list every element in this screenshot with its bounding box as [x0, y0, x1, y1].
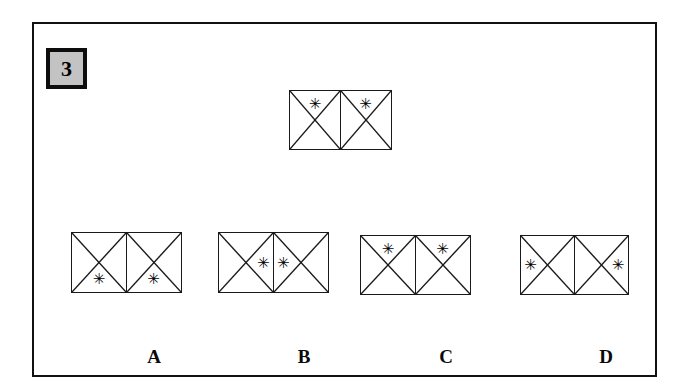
asterisk-marker: ✳ [359, 97, 373, 111]
option-a-figure[interactable]: ✳✳ [71, 232, 182, 293]
option-d-figure-cell-1: ✳ [520, 235, 575, 295]
option-c-figure-cell-1: ✳ [360, 235, 416, 295]
prompt-figure-cell-1: ✳ [289, 90, 341, 150]
prompt-figure: ✳✳ [289, 90, 392, 150]
option-a-figure-cell-2: ✳ [126, 232, 182, 293]
asterisk-marker: ✳ [611, 258, 625, 272]
option-b-figure[interactable]: ✳✳ [218, 232, 329, 293]
option-d-figure[interactable]: ✳✳ [520, 235, 629, 295]
asterisk-marker: ✳ [524, 258, 538, 272]
option-label-d[interactable]: D [586, 346, 626, 368]
prompt-figure-cell-2: ✳ [340, 90, 392, 150]
option-c-figure-cell-2: ✳ [415, 235, 471, 295]
option-label-a[interactable]: A [134, 346, 174, 368]
question-number-text: 3 [61, 58, 72, 80]
asterisk-marker: ✳ [436, 242, 450, 256]
option-label-c[interactable]: C [426, 346, 466, 368]
option-c-figure[interactable]: ✳✳ [360, 235, 471, 295]
option-a-figure-cell-1: ✳ [71, 232, 127, 293]
option-label-b[interactable]: B [284, 346, 324, 368]
asterisk-marker: ✳ [308, 97, 322, 111]
option-b-figure-cell-1: ✳ [218, 232, 274, 293]
option-d-figure-cell-2: ✳ [574, 235, 629, 295]
asterisk-marker: ✳ [256, 256, 270, 270]
question-number-badge: 3 [46, 48, 87, 89]
option-b-figure-cell-2: ✳ [273, 232, 329, 293]
puzzle-frame: 3 ✳✳✳✳A✳✳B✳✳C✳✳D [32, 22, 657, 377]
asterisk-marker: ✳ [276, 256, 290, 270]
asterisk-marker: ✳ [92, 272, 106, 286]
asterisk-marker: ✳ [381, 242, 395, 256]
asterisk-marker: ✳ [147, 272, 161, 286]
